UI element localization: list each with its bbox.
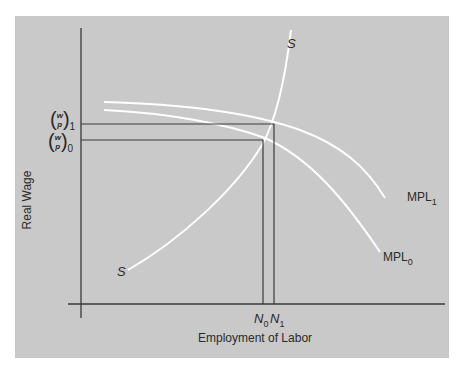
mpl0-label: MPL0 [383,250,413,264]
x-axis-label: Employment of Labor [198,331,312,345]
supply-label-top: S [287,36,296,51]
mpl1-curve [104,102,385,198]
y-axis-label: Real Wage [20,171,34,230]
mpl0-curve [104,110,380,252]
mpl1-label: MPL1 [407,190,437,204]
labor-market-diagram [0,0,463,374]
tick-label-w-p-1: (wp)1 [50,108,75,131]
tick-label-w-p-0: (wp)0 [48,130,73,153]
supply-label-bottom: S [117,264,126,279]
supply-curve [128,30,291,270]
tick-label-n1: N1 [270,311,284,326]
tick-label-n0: N0 [254,311,268,326]
